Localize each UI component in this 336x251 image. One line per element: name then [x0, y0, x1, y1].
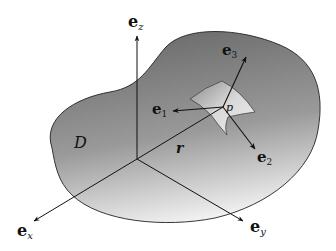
label-ez: ez	[128, 12, 144, 32]
surface-frame-diagram: ez ex ey e3 e1 e2 D p r	[0, 0, 336, 251]
region-d	[50, 32, 320, 223]
label-ey: ey	[250, 217, 266, 237]
label-region-d: D	[73, 133, 87, 152]
label-ex: ex	[17, 221, 33, 241]
label-point-p: p	[226, 101, 233, 114]
